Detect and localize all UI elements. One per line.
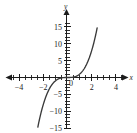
x-axis-label: x	[129, 73, 134, 82]
y-axis-tick-label: −15	[49, 124, 62, 133]
x-axis-tick-label: −2	[39, 83, 48, 92]
cubic-function-plot: −4−224 x 15105−5−10−15 y 0	[0, 0, 137, 133]
x-axis-arrow-left-icon	[6, 75, 13, 81]
y-axis-tick-label: 5	[58, 57, 62, 66]
x-axis-arrow-right-icon	[122, 75, 129, 81]
y-axis-tick-label: 10	[54, 40, 62, 49]
x-axis-tick-label: 2	[90, 83, 94, 92]
y-axis-minor-ticks	[65, 24, 70, 128]
graph-figure: −4−224 x 15105−5−10−15 y 0	[0, 0, 137, 133]
y-axis-tick-label: 15	[54, 23, 62, 32]
x-axis-tick-label: −4	[15, 83, 24, 92]
y-axis-label: y	[63, 2, 68, 11]
x-axis-tick-label: 4	[114, 83, 118, 92]
y-axis-tick-label: −10	[49, 107, 62, 116]
origin-label: 0	[69, 79, 73, 88]
y-axis-tick-label: −5	[53, 90, 62, 99]
y-axis-group: 15105−5−10−15 y 0	[49, 2, 73, 133]
